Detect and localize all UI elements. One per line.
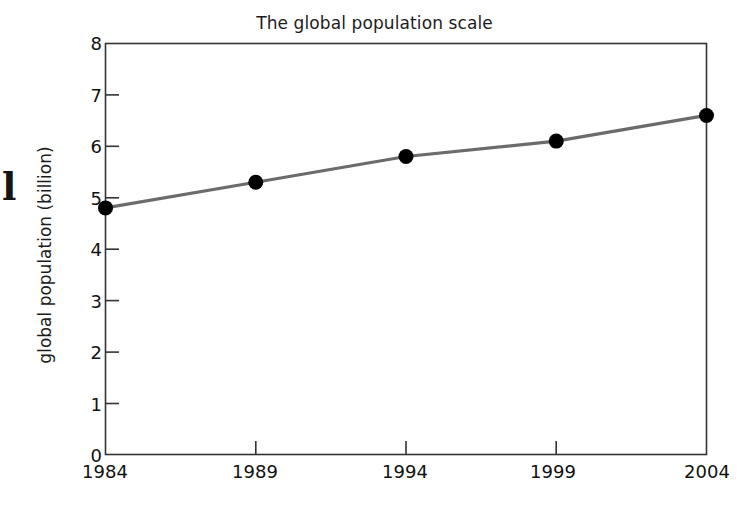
plot-area [0,0,749,519]
plot-frame [106,44,707,455]
y-axis-ticks [106,95,120,404]
data-point-markers [98,108,714,215]
data-point-1994 [399,149,414,164]
data-point-1989 [248,175,263,190]
data-point-1999 [549,134,564,149]
data-point-1984 [98,200,113,215]
data-point-2004 [699,108,714,123]
x-axis-ticks [256,441,556,455]
chart-figure: l The global population scale global pop… [0,0,749,519]
